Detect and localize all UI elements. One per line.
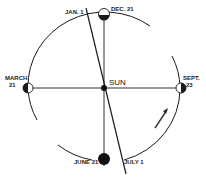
sun-icon (101, 85, 107, 91)
earth-sept23-icon (176, 83, 186, 93)
orbit-diagram: SUN DEC. 21 JAN. 1 MARCH 21 SEPT. 23 JUN… (0, 0, 206, 178)
sept23-label-line1: SEPT. (183, 75, 200, 81)
earth-dec21-icon (99, 9, 110, 21)
perihelion-aphelion-line (86, 8, 126, 174)
sept23-label-line2: 23 (186, 82, 193, 88)
june21-label: JUNE 21 (74, 159, 99, 165)
direction-arrow-icon (155, 108, 168, 128)
jan1-label: JAN. 1 (65, 9, 84, 15)
march21-label-line1: MARCH (5, 75, 27, 81)
march21-label-line2: 21 (9, 82, 16, 88)
earth-june21-icon (98, 153, 110, 165)
dec21-label: DEC. 21 (111, 6, 134, 12)
earth-march21-icon (23, 83, 33, 93)
july1-label: JULY 1 (124, 159, 144, 165)
sun-label: SUN (109, 78, 126, 87)
